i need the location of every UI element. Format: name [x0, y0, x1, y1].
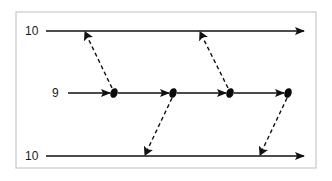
- middle-line-label: 9: [52, 86, 59, 100]
- flow-diagram: 10 9 10: [0, 0, 332, 181]
- diagram-frame: [16, 12, 316, 168]
- bottom-line-label: 10: [25, 149, 39, 163]
- top-line-label: 10: [25, 24, 39, 38]
